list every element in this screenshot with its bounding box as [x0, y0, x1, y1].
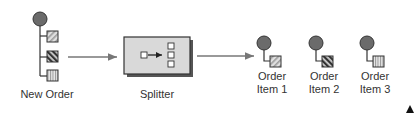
- splitter-icon: [124, 37, 193, 77]
- splitter-label: Splitter: [122, 88, 192, 101]
- new-order-label: New Order: [12, 88, 82, 101]
- new-order-message-icon: [33, 12, 58, 81]
- triangle-marker-icon: [406, 105, 414, 113]
- order-item-1-label: Order Item 1: [252, 70, 292, 96]
- order-item-2-label: Order Item 2: [304, 70, 344, 96]
- order-item-3-label: Order Item 3: [355, 70, 395, 96]
- order-item-2-icon: [309, 36, 333, 67]
- order-item-2-line2: Item 2: [304, 83, 344, 96]
- order-item-3-icon: [360, 36, 384, 67]
- order-item-1-icon: [257, 36, 281, 67]
- order-item-1-line2: Item 1: [252, 83, 292, 96]
- order-item-2-line1: Order: [304, 70, 344, 83]
- order-item-3-line2: Item 3: [355, 83, 395, 96]
- order-item-1-line1: Order: [252, 70, 292, 83]
- order-item-3-line1: Order: [355, 70, 395, 83]
